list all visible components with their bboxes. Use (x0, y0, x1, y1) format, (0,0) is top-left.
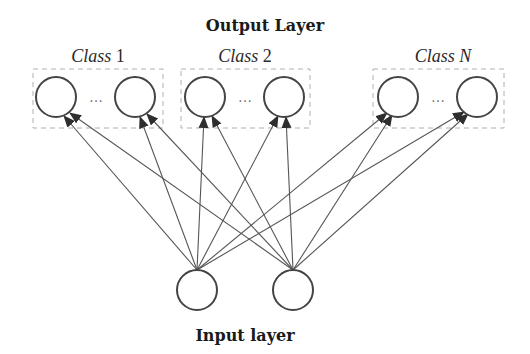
input-layer (177, 270, 313, 310)
output-node-class2-last (264, 77, 304, 117)
ellipsis-class2: … (238, 89, 252, 105)
output-node-class1-last (115, 77, 155, 117)
output-layer: … … … (36, 77, 497, 117)
class-1-label: Class 1 (71, 46, 125, 66)
output-node-classN-first (378, 77, 418, 117)
output-layer-title: Output Layer (206, 16, 325, 35)
input-node-2 (273, 270, 313, 310)
input-layer-title: Input layer (195, 326, 295, 345)
neural-network-diagram: Output Layer Input layer Class 1 Class 2… (0, 0, 530, 354)
output-node-class2-first (185, 77, 225, 117)
output-node-classN-last (457, 77, 497, 117)
class-2-label: Class 2 (218, 46, 272, 66)
ellipsis-classN: … (431, 89, 445, 105)
edges-from-input-1 (64, 112, 464, 270)
ellipsis-class1: … (89, 89, 103, 105)
output-node-class1-first (36, 77, 76, 117)
input-node-1 (177, 270, 217, 310)
class-n-label: Class N (415, 46, 473, 66)
